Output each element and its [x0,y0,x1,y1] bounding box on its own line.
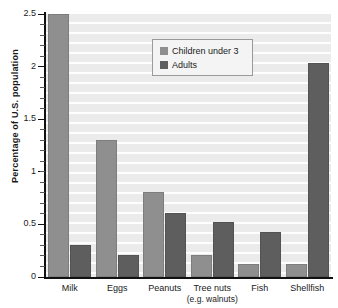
y-tick-minor [40,234,45,235]
y-tick-minor [40,255,45,256]
bar-peanuts-children [143,192,164,277]
y-tick-minor [40,150,45,151]
bar-chart-figure: Percentage of U.S. population 00.511.522… [0,0,338,308]
y-tick-minor [40,213,45,214]
y-tick-minor [40,24,45,25]
y-tick-minor [40,45,45,46]
y-tick-major [38,66,45,67]
y-tick-label: 0 [4,272,36,281]
y-tick-minor [40,140,45,141]
y-tick-minor [40,56,45,57]
bar-tree-nuts-children [191,255,212,277]
y-tick-minor [40,245,45,246]
legend-label-adults: Adults [172,60,197,70]
bar-shellfish-adults [308,63,329,277]
y-tick-minor [40,192,45,193]
legend-label-children: Children under 3 [172,46,239,56]
bar-milk-children [48,14,69,277]
bar-fish-adults [260,232,281,277]
y-tick-minor [40,77,45,78]
bar-shellfish-children [286,264,307,277]
chart-legend: Children under 3 Adults [152,39,253,76]
bar-tree-nuts-adults [213,222,234,277]
x-axis-label-shellfish: Shellfish [262,283,338,294]
bar-eggs-adults [118,255,139,277]
legend-entry-children: Children under 3 [160,44,252,58]
y-tick-label: 0.5 [4,219,36,228]
y-tick-label: 1 [4,167,36,176]
y-axis-line [44,12,46,279]
y-tick-minor [40,108,45,109]
y-tick-major [38,119,45,120]
y-tick-minor [40,266,45,267]
y-tick-minor [40,98,45,99]
x-axis-line [44,277,333,279]
y-tick-minor [40,129,45,130]
y-tick-minor [40,203,45,204]
bar-peanuts-adults [165,213,186,277]
y-tick-label: 2.5 [4,9,36,18]
bar-fish-children [238,264,259,277]
legend-entry-adults: Adults [160,58,252,72]
bar-milk-adults [70,245,91,277]
y-tick-major [38,14,45,15]
y-tick-minor [40,182,45,183]
bar-eggs-children [96,140,117,277]
y-tick-major [38,224,45,225]
y-tick-label: 2 [4,62,36,71]
legend-swatch-icon-children [160,47,168,55]
y-tick-minor [40,161,45,162]
y-tick-minor [40,171,45,172]
x-axis-sublabel: (e.g. walnuts) [167,294,257,305]
y-tick-major [38,277,45,278]
y-tick-minor [40,87,45,88]
y-tick-label: 1.5 [4,114,36,123]
legend-swatch-icon-adults [160,61,168,69]
y-tick-minor [40,35,45,36]
